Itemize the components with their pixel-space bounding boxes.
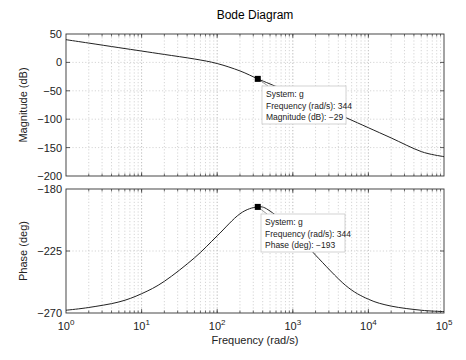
data-tip-line: Frequency (rad/s): 344: [266, 101, 352, 111]
data-tip-line: Phase (deg): −193: [265, 240, 335, 250]
y-tick-label: 50: [50, 28, 62, 40]
y-tick-label: 0: [56, 56, 62, 68]
data-tip[interactable]: System: gFrequency (rad/s): 344Phase (de…: [255, 204, 351, 252]
response-curve: [66, 40, 444, 157]
phase-panel: −180−225−270100101102103104105System: gF…: [37, 183, 453, 332]
y-tick-label: −50: [43, 85, 62, 97]
x-tick-label: 104: [360, 318, 377, 332]
magnitude-y-label: Magnitude (dB): [17, 67, 29, 142]
x-tick-label: 102: [209, 318, 226, 332]
y-tick-label: −180: [37, 183, 62, 195]
chart-title: Bode Diagram: [217, 8, 294, 22]
data-tip-line: System: g: [265, 217, 303, 227]
phase-y-label: Phase (deg): [17, 221, 29, 281]
magnitude-panel: 500−50−100−150−200System: gFrequency (ra…: [37, 28, 444, 182]
x-tick-label: 103: [284, 318, 301, 332]
data-marker[interactable]: [255, 204, 261, 210]
bode-diagram: Bode Diagram 500−50−100−150−200System: g…: [0, 0, 466, 360]
x-axis-label: Frequency (rad/s): [212, 334, 299, 346]
data-tip-line: Magnitude (dB): −29: [266, 112, 344, 122]
data-tip-line: Frequency (rad/s): 344: [265, 229, 351, 239]
y-tick-label: −270: [37, 307, 62, 319]
y-tick-label: −150: [37, 142, 62, 154]
data-tip-line: System: g: [266, 89, 304, 99]
x-tick-label: 105: [436, 318, 453, 332]
y-tick-label: −200: [37, 170, 62, 182]
x-tick-label: 100: [58, 318, 75, 332]
y-tick-label: −225: [37, 245, 62, 257]
axes-frame: [66, 34, 444, 176]
response-curve: [66, 207, 444, 312]
x-tick-label: 101: [133, 318, 150, 332]
data-tip[interactable]: System: gFrequency (rad/s): 344Magnitude…: [255, 76, 352, 124]
y-tick-label: −100: [37, 113, 62, 125]
data-marker[interactable]: [255, 76, 261, 82]
